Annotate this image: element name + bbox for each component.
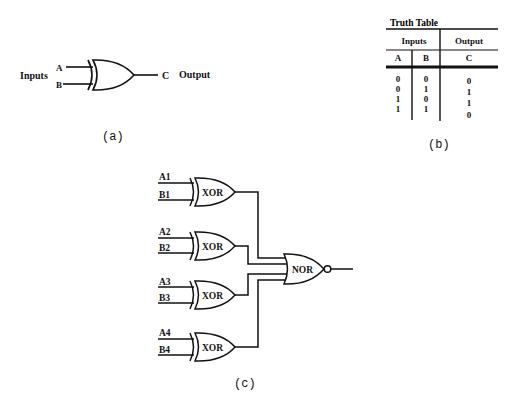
panel-c (158, 178, 353, 361)
cell-a: 0 (396, 74, 401, 84)
truth-table-title: Truth Table (390, 18, 438, 28)
xor-gate-icon (93, 60, 134, 90)
input-label-b2: B2 (159, 243, 170, 253)
xor-back-arc (88, 60, 92, 90)
cell-b: 0 (424, 74, 429, 84)
output-c-label: C (162, 70, 169, 81)
diagram-canvas: Inputs A B C Output (a) Truth Table Inpu… (0, 0, 514, 403)
input-label-b1: B1 (159, 190, 170, 200)
input-a-label: A (56, 63, 63, 73)
cell-a: 1 (396, 104, 401, 114)
input-label-b4: B4 (159, 345, 170, 355)
input-b-label: B (56, 80, 62, 90)
input-label-b3: B3 (159, 293, 170, 303)
output-label: Output (179, 69, 211, 80)
wire-xor1-nor (235, 192, 286, 258)
inputs-label: Inputs (20, 70, 48, 81)
cell-b: 0 (424, 94, 429, 104)
cell-b: 1 (424, 84, 429, 94)
input-label-a2: A2 (159, 227, 171, 237)
header-b: B (423, 53, 429, 63)
cell-a: 0 (396, 84, 401, 94)
header-output: Output (455, 36, 483, 46)
header-a: A (395, 53, 402, 63)
input-label-a1: A1 (159, 172, 171, 182)
cell-c: 1 (467, 87, 472, 97)
xor-label-1: XOR (202, 188, 223, 198)
panel-a-labels: Inputs A B C Output (a) (20, 63, 211, 144)
cell-c: 1 (467, 98, 472, 108)
input-label-a4: A4 (159, 328, 171, 338)
xor-label-4: XOR (202, 343, 223, 353)
caption-c: (c) (234, 377, 256, 391)
cell-b: 1 (424, 104, 429, 114)
wire-xor2-nor (235, 246, 287, 264)
caption-b: (b) (428, 138, 450, 152)
cell-c: 0 (467, 110, 472, 120)
caption-a: (a) (102, 130, 124, 144)
wire-xor4-nor (235, 280, 286, 347)
input-label-a3: A3 (159, 277, 171, 287)
panel-a (63, 60, 158, 90)
xor-label-3: XOR (202, 291, 223, 301)
wire-xor3-nor (235, 274, 287, 295)
truth-table: Truth Table Inputs Output A B C 0 0 0 0 … (386, 18, 498, 152)
header-inputs: Inputs (401, 36, 427, 46)
xor-label-2: XOR (202, 242, 223, 252)
cell-c: 0 (467, 76, 472, 86)
header-c: C (466, 53, 473, 63)
inversion-bubble-icon (324, 266, 331, 273)
cell-a: 1 (396, 94, 401, 104)
nor-label: NOR (292, 265, 313, 275)
